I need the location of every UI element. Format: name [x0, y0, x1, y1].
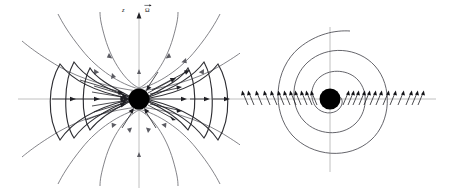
- radial-tick-arrow: [376, 91, 383, 105]
- field-line: [140, 41, 240, 91]
- panel-equatorial-view: [240, 0, 454, 196]
- central-star-right: [320, 89, 341, 110]
- field-line: [140, 107, 240, 157]
- radial-tick-arrow: [263, 91, 270, 105]
- panel-meridional-view: z Ω: [0, 0, 240, 196]
- radial-tick-arrow: [283, 91, 290, 105]
- field-line: [100, 12, 139, 88]
- axis-arrowhead-icon: [137, 12, 142, 18]
- flux-surface: [66, 62, 129, 138]
- radial-tick-arrow: [412, 91, 419, 105]
- radial-arrow-head-icon: [70, 97, 76, 101]
- radial-tick-arrow: [418, 91, 425, 105]
- axis-flow-arrowhead-icon: [137, 152, 141, 157]
- radial-tick-arrow: [247, 91, 254, 105]
- radial-arrow-head-icon: [204, 97, 210, 101]
- radial-tick-arrow: [398, 91, 405, 105]
- field-line-arrowhead-icon: [146, 127, 151, 133]
- z-axis-label: z: [121, 6, 125, 13]
- axis-flow-arrowhead-icon: [137, 69, 141, 74]
- radial-arrow-head-icon: [94, 97, 100, 101]
- radial-arrow-head-icon: [181, 97, 187, 101]
- radial-tick-arrow: [390, 91, 397, 105]
- field-line: [139, 110, 178, 186]
- field-line-arrowhead-icon: [161, 123, 166, 128]
- radial-tick-arrow: [406, 91, 413, 105]
- omega-vector-label: Ω: [145, 6, 150, 13]
- radial-arrow-head-icon: [224, 97, 230, 101]
- radial-tick-arrow: [255, 91, 262, 105]
- radial-arrow: [148, 72, 158, 87]
- radial-tick-arrow: [370, 91, 377, 105]
- field-line-arrowhead-icon: [199, 69, 204, 75]
- field-line: [22, 107, 138, 157]
- radial-tick-arrow: [270, 91, 277, 105]
- omega-vector-arrow-icon: [149, 4, 151, 6]
- field-line: [139, 12, 178, 88]
- central-star-left: [129, 89, 150, 110]
- field-line-arrowhead-icon: [181, 58, 186, 63]
- field-line-arrowhead-icon: [127, 127, 132, 133]
- figure-root: z Ω: [0, 0, 454, 196]
- radial-tick-arrow: [241, 91, 248, 105]
- field-line: [22, 41, 138, 91]
- field-line-arrowhead-icon: [112, 123, 117, 128]
- field-line: [100, 110, 139, 186]
